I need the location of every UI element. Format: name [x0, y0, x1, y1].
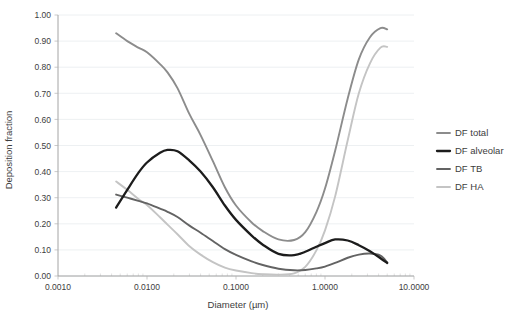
legend: DF totalDF alveolarDF TBDF HA: [437, 127, 504, 192]
y-tick-label: 0.80: [34, 62, 51, 72]
series-line-df-tb: [116, 195, 387, 271]
x-tick-label: 1.0000: [312, 282, 338, 292]
y-tick-label: 0.10: [34, 245, 51, 255]
y-tick-label: 0.50: [34, 141, 51, 151]
x-axis-title: Diameter (µm): [208, 299, 269, 310]
series-group: [116, 28, 387, 275]
y-axis-title: Deposition fraction: [3, 111, 14, 190]
y-tick-label: 0.30: [34, 193, 51, 203]
legend-label: DF TB: [455, 163, 482, 174]
x-tick-label: 10.0000: [399, 282, 430, 292]
deposition-fraction-chart: 0.000.100.200.300.400.500.600.700.800.90…: [0, 0, 524, 318]
y-tick-label: 0.20: [34, 219, 51, 229]
legend-label: DF alveolar: [455, 145, 504, 156]
x-tick-labels-group: 0.00100.01000.10001.000010.0000: [45, 282, 430, 292]
x-tick-label: 0.0010: [45, 282, 71, 292]
y-tick-label: 1.00: [34, 10, 51, 20]
y-tick-label: 0.60: [34, 115, 51, 125]
legend-label: DF total: [455, 127, 488, 138]
legend-label: DF HA: [455, 181, 484, 192]
y-tick-label: 0.90: [34, 36, 51, 46]
y-tick-label: 0.00: [34, 271, 51, 281]
y-tick-label: 0.40: [34, 167, 51, 177]
chart-svg: 0.000.100.200.300.400.500.600.700.800.90…: [0, 0, 524, 318]
series-line-df-total: [116, 28, 387, 241]
x-tick-label: 0.0100: [134, 282, 160, 292]
x-tick-label: 0.1000: [223, 282, 249, 292]
y-tick-label: 0.70: [34, 89, 51, 99]
y-tick-labels-group: 0.000.100.200.300.400.500.600.700.800.90…: [34, 10, 51, 281]
